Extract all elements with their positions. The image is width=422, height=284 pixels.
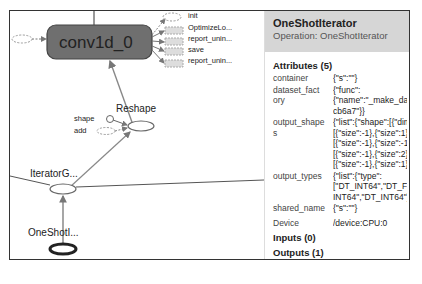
add-input-label[interactable]: add bbox=[74, 126, 87, 135]
attribute-value: {"s":""} bbox=[333, 73, 407, 84]
attribute-value: {"list":{"type": ["DT_INT64","DT_FLOA IN… bbox=[333, 171, 407, 203]
device-row: Device /device:CPU:0 bbox=[273, 218, 407, 229]
attribute-key: dataset_fact ory bbox=[273, 85, 333, 117]
attribute-value: {"func": {"name":"_make_datas cb6a7"}} bbox=[333, 85, 407, 117]
graph-viewer-frame: conv1d_0 init OptimizeLo... report_unin.… bbox=[9, 10, 410, 260]
attribute-value: {"list":{"shape":[{"dim": [{"size":-1},{… bbox=[333, 117, 407, 170]
attribute-value: {"s":""} bbox=[333, 203, 407, 214]
inputs-header: Inputs (0) bbox=[273, 232, 407, 243]
iterator-get-next-label[interactable]: IteratorG... bbox=[30, 168, 78, 179]
attribute-key: shared_name bbox=[273, 203, 333, 214]
attribute-row: container {"s":""} bbox=[273, 73, 407, 84]
attribute-key: output_types bbox=[273, 171, 333, 203]
attribute-row: output_shape s {"list":{"shape":[{"dim":… bbox=[273, 117, 407, 170]
reshape-node-label[interactable]: Reshape bbox=[116, 103, 156, 114]
aux-node-save[interactable]: save bbox=[188, 45, 204, 54]
panel-title: OneShotIterator bbox=[273, 17, 403, 29]
panel-subtitle: Operation: OneShotIterator bbox=[273, 30, 403, 41]
attribute-key: output_shape s bbox=[273, 117, 333, 170]
device-label: Device bbox=[273, 218, 333, 229]
graph-canvas[interactable]: conv1d_0 init OptimizeLo... report_unin.… bbox=[10, 11, 264, 259]
device-value: /device:CPU:0 bbox=[333, 218, 407, 229]
attribute-key: container bbox=[273, 73, 333, 84]
outputs-header: Outputs (1) bbox=[273, 247, 407, 258]
panel-header: OneShotIterator Operation: OneShotIterat… bbox=[265, 11, 410, 52]
aux-node-report-1[interactable]: report_unin... bbox=[188, 34, 232, 43]
attribute-row: dataset_fact ory {"func": {"name":"_make… bbox=[273, 85, 407, 117]
conv1d-node-label[interactable]: conv1d_0 bbox=[59, 33, 133, 53]
aux-node-optimize[interactable]: OptimizeLo... bbox=[188, 23, 232, 32]
graph-edges-svg bbox=[10, 11, 264, 259]
one-shot-iterator-label[interactable]: OneShotI... bbox=[28, 227, 79, 238]
attribute-row: shared_name {"s":""} bbox=[273, 203, 407, 214]
attributes-header: Attributes (5) bbox=[273, 60, 407, 71]
attribute-row: output_types {"list":{"type": ["DT_INT64… bbox=[273, 171, 407, 203]
node-info-panel: OneShotIterator Operation: OneShotIterat… bbox=[264, 11, 410, 259]
aux-node-report-2[interactable]: report_unin... bbox=[188, 56, 232, 65]
shape-input-label[interactable]: shape bbox=[74, 114, 94, 123]
aux-node-init[interactable]: init bbox=[188, 11, 198, 20]
panel-body: Attributes (5) container {"s":""} datase… bbox=[265, 52, 410, 260]
